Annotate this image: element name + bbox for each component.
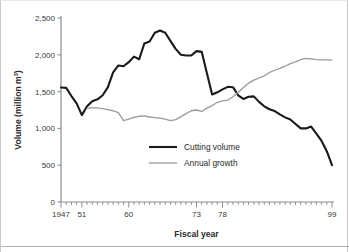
x-tick-label: 78 <box>218 210 227 219</box>
legend-label-0: Cutting volume <box>184 142 240 152</box>
y-tick-label: 1,500 <box>35 88 56 97</box>
x-tick-label: 99 <box>328 210 337 219</box>
y-axis-title: Volume (million m3) <box>13 70 23 150</box>
y-tick-label: 2,000 <box>35 51 56 60</box>
line-chart: 05001,0001,5002,0002,50019475160737899Fi… <box>1 1 349 252</box>
x-tick-label: 1947 <box>52 210 70 219</box>
y-tick-label: 1,000 <box>35 124 56 133</box>
y-tick-label: 0 <box>51 198 56 207</box>
x-axis-title: Fiscal year <box>174 229 219 239</box>
y-tick-label: 500 <box>42 161 56 170</box>
x-tick-label: 51 <box>77 210 86 219</box>
legend-label-1: Annual growth <box>184 158 238 168</box>
x-tick-label: 60 <box>124 210 133 219</box>
series-line-annual-growth <box>87 58 332 120</box>
y-tick-label: 2,500 <box>35 14 56 23</box>
x-tick-label: 73 <box>192 210 201 219</box>
